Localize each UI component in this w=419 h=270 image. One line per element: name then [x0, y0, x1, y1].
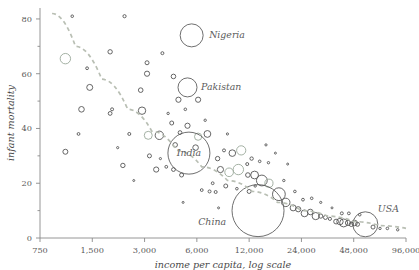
data-bubble: [138, 88, 143, 93]
data-bubble: [144, 71, 149, 76]
data-bubble: [86, 67, 89, 70]
data-bubble: [287, 163, 289, 165]
data-bubble: [108, 112, 112, 116]
data-bubble: [310, 197, 313, 200]
data-bubble: [340, 212, 343, 215]
y-tick-label: 20: [22, 178, 32, 188]
data-bubble: [328, 217, 331, 220]
country-label-pakistan: Pakistan: [200, 81, 241, 92]
y-axis-title: infant mortality: [5, 84, 16, 161]
data-bubble: [117, 147, 119, 149]
data-bubble: [79, 107, 85, 113]
data-bubble: [320, 201, 322, 203]
data-bubble: [145, 61, 149, 65]
data-bubble: [211, 182, 214, 185]
data-bubble: [226, 133, 228, 135]
y-tick-label: 80: [22, 14, 32, 24]
data-bubble: [237, 146, 246, 155]
x-tick-label: 6,000: [185, 245, 208, 255]
bubble-series: [60, 15, 399, 237]
data-bubble: [340, 219, 348, 227]
data-bubble: [176, 97, 181, 102]
data-bubble: [208, 190, 211, 193]
y-axis-ticks: 020406080: [22, 14, 40, 243]
data-bubble: [185, 123, 190, 128]
data-bubble: [77, 133, 80, 136]
data-bubble: [180, 173, 184, 177]
data-bubble: [218, 207, 220, 209]
data-bubble: [247, 189, 251, 193]
data-bubble: [215, 156, 219, 160]
x-tick-label: 3,000: [133, 245, 156, 255]
data-bubble: [180, 24, 203, 47]
data-bubble: [63, 149, 68, 154]
data-bubble: [159, 158, 161, 160]
data-bubble: [165, 165, 168, 168]
data-bubble: [111, 108, 114, 111]
data-bubble: [371, 225, 375, 229]
data-bubble: [60, 53, 70, 63]
data-bubble: [200, 189, 203, 192]
data-bubble: [224, 184, 228, 188]
data-bubble: [250, 157, 253, 160]
data-bubble: [274, 152, 276, 154]
infant-mortality-scatter-chart: 7501,5003,0006,00012,00024,00048,00096,0…: [0, 0, 419, 270]
country-label-usa: USA: [378, 203, 399, 214]
data-bubble: [144, 131, 152, 139]
x-tick-label: 24,000: [287, 245, 316, 255]
data-bubble: [379, 227, 381, 229]
data-bubble: [182, 201, 184, 203]
data-bubble: [386, 227, 389, 230]
data-bubble: [294, 190, 297, 193]
trendline: [52, 13, 406, 228]
data-bubble: [87, 84, 93, 90]
country-label-nigeria: Nigeria: [208, 29, 245, 40]
data-bubble: [229, 150, 236, 157]
data-bubble: [267, 162, 269, 164]
data-bubble: [123, 15, 126, 18]
data-bubble: [236, 187, 239, 190]
data-bubble: [178, 78, 197, 97]
data-bubble: [217, 166, 223, 172]
data-bubble: [71, 15, 74, 18]
x-tick-label: 96,000: [392, 245, 419, 255]
data-bubble: [128, 132, 131, 135]
data-bubble: [258, 160, 261, 163]
country-label-india: India: [176, 147, 201, 158]
data-bubble: [214, 191, 217, 194]
x-tick-label: 750: [32, 245, 48, 255]
data-bubble: [246, 163, 249, 166]
data-bubble: [196, 97, 201, 102]
data-bubble: [147, 154, 151, 158]
data-bubble: [133, 180, 135, 182]
y-tick-label: 60: [22, 69, 32, 79]
data-bubble: [172, 168, 176, 172]
data-bubble: [167, 112, 169, 114]
data-bubble: [108, 50, 112, 54]
axes: [40, 8, 406, 238]
data-bubble: [121, 163, 125, 167]
data-bubble: [265, 144, 267, 146]
x-tick-label: 1,500: [81, 245, 104, 255]
data-bubble: [154, 167, 159, 172]
data-bubble: [358, 213, 361, 216]
x-axis-ticks: 7501,5003,0006,00012,00024,00048,00096,0…: [32, 238, 419, 255]
data-bubble: [204, 131, 211, 138]
data-bubble: [223, 149, 226, 152]
data-bubble: [347, 212, 350, 215]
x-tick-label: 48,000: [339, 245, 368, 255]
data-bubble: [138, 107, 145, 114]
data-bubble: [161, 52, 164, 55]
data-bubble: [233, 164, 243, 174]
y-tick-label: 0: [27, 233, 32, 243]
data-bubble: [246, 173, 251, 178]
y-tick-label: 40: [22, 123, 32, 133]
x-tick-label: 12,000: [235, 245, 264, 255]
data-bubble: [171, 74, 176, 79]
country-label-china: China: [198, 216, 226, 227]
data-bubble: [331, 207, 333, 209]
data-bubble: [204, 119, 206, 121]
chart-canvas: 7501,5003,0006,00012,00024,00048,00096,0…: [0, 0, 419, 270]
data-bubble: [397, 229, 399, 231]
data-bubble: [184, 108, 187, 111]
